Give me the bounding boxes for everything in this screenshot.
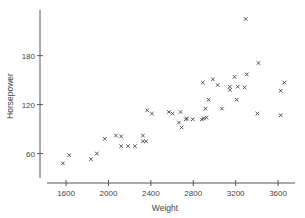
- data-point-x-marker: [233, 75, 237, 79]
- x-tick-label: 2000: [100, 189, 118, 198]
- data-point-x-marker: [141, 134, 145, 138]
- data-point-x-marker: [211, 78, 215, 82]
- data-point-x-marker: [119, 144, 123, 148]
- data-point-x-marker: [150, 112, 154, 116]
- data-point-x-marker: [235, 98, 239, 102]
- data-point-x-marker: [114, 134, 118, 138]
- data-point-x-marker: [243, 86, 247, 90]
- x-tick-label: 2400: [142, 189, 160, 198]
- data-point-x-marker: [119, 135, 123, 139]
- data-point-x-marker: [228, 85, 232, 89]
- x-tick-label: 2800: [184, 189, 202, 198]
- data-point-x-marker: [126, 144, 130, 148]
- scatter-chart: 60120180 160020002400280032003600 Weight…: [0, 0, 305, 218]
- data-point-x-marker: [283, 81, 287, 85]
- data-point-x-marker: [279, 89, 283, 93]
- data-point-x-marker: [141, 140, 145, 144]
- y-tick-label: 60: [26, 150, 35, 159]
- data-point-x-marker: [228, 88, 232, 92]
- data-point-x-marker: [244, 17, 248, 21]
- data-point-x-marker: [257, 61, 261, 65]
- data-point-x-marker: [61, 162, 65, 166]
- y-axis: 60120180: [22, 10, 43, 178]
- data-point-x-marker: [89, 157, 93, 161]
- data-points: [61, 17, 286, 165]
- y-tick-label: 120: [22, 101, 36, 110]
- data-point-x-marker: [177, 121, 181, 125]
- data-point-x-marker: [171, 112, 175, 116]
- x-tick-label: 3600: [269, 189, 287, 198]
- data-point-x-marker: [180, 126, 184, 130]
- data-point-x-marker: [256, 112, 260, 116]
- data-point-x-marker: [245, 73, 249, 77]
- data-point-x-marker: [103, 137, 107, 141]
- data-point-x-marker: [216, 83, 220, 87]
- data-point-x-marker: [145, 109, 149, 113]
- data-point-x-marker: [144, 140, 148, 144]
- y-axis-label: Horsepower: [5, 73, 15, 119]
- data-point-x-marker: [204, 107, 208, 111]
- x-tick-label: 1600: [57, 189, 75, 198]
- data-point-x-marker: [201, 81, 205, 85]
- plot-area: 60120180 160020002400280032003600 Weight…: [0, 0, 305, 218]
- y-tick-label: 180: [22, 52, 36, 61]
- data-point-x-marker: [207, 98, 211, 102]
- data-point-x-marker: [133, 144, 137, 148]
- x-axis-label: Weight: [152, 203, 179, 213]
- data-point-x-marker: [95, 152, 99, 156]
- data-point-x-marker: [167, 110, 171, 114]
- x-tick-label: 3200: [227, 189, 245, 198]
- data-point-x-marker: [179, 110, 183, 114]
- data-point-x-marker: [236, 85, 240, 89]
- data-point-x-marker: [67, 153, 71, 157]
- data-point-x-marker: [279, 113, 283, 117]
- x-axis: 160020002400280032003600: [47, 180, 295, 198]
- data-point-x-marker: [220, 107, 224, 111]
- data-point-x-marker: [191, 117, 195, 121]
